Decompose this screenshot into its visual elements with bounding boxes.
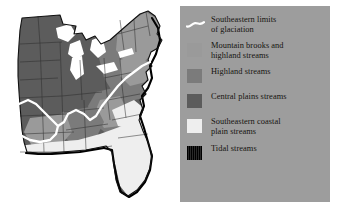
legend-label-central-plains-streams: Central plains streams	[211, 92, 287, 102]
legend-swatch-highland-streams	[187, 69, 202, 83]
legend-line-1: Southeastern limits	[211, 15, 276, 24]
legend-item-central-plains-streams: Central plains streams	[180, 92, 330, 109]
legend-panel: Southeastern limits of glaciation Mounta…	[180, 6, 330, 202]
legend-label-mountain-brooks: Mountain brooks and highland streams	[211, 41, 284, 60]
legend-swatch-cell	[187, 145, 204, 161]
legend-swatch-cell	[187, 42, 204, 58]
legend-line-1: Southeastern coastal	[211, 117, 281, 126]
legend-swatch-cell	[187, 16, 204, 32]
legend-swatch-mountain-brooks	[187, 43, 202, 57]
legend-line-1: Tidal streams	[211, 144, 257, 153]
legend-line-1: Mountain brooks and	[211, 41, 284, 50]
legend-line-1: Highland streams	[211, 67, 271, 76]
legend-swatch-tidal-streams	[187, 146, 202, 160]
legend-label-highland-streams: Highland streams	[211, 67, 271, 77]
legend-line-2: highland streams	[211, 51, 284, 61]
legend-line-2: of glaciation	[211, 25, 276, 35]
legend-item-coastal-plain-streams: Southeastern coastal plain streams	[180, 117, 330, 136]
eastern-us-map	[0, 0, 180, 216]
legend-item-glaciation-limit: Southeastern limits of glaciation	[180, 15, 330, 34]
legend-swatch-cell	[187, 118, 204, 134]
map-regions	[0, 0, 180, 216]
legend-label-tidal-streams: Tidal streams	[211, 144, 257, 154]
legend-label-coastal-plain-streams: Southeastern coastal plain streams	[211, 117, 281, 136]
legend-line-1: Central plains streams	[211, 92, 287, 101]
legend-item-highland-streams: Highland streams	[180, 67, 330, 84]
legend-swatch-central-plains-streams	[187, 94, 202, 108]
legend-line-2: plain streams	[211, 127, 281, 137]
legend-item-tidal-streams: Tidal streams	[180, 144, 330, 161]
legend-swatch-cell	[187, 93, 204, 109]
glaciation-line-icon	[186, 20, 205, 29]
stream-types-figure: Southeastern limits of glaciation Mounta…	[0, 0, 337, 216]
legend-swatch-cell	[187, 68, 204, 84]
legend-swatch-coastal-plain-streams	[187, 119, 202, 133]
legend-item-mountain-brooks: Mountain brooks and highland streams	[180, 41, 330, 60]
legend-label-glaciation-limit: Southeastern limits of glaciation	[211, 15, 276, 34]
map-panel	[0, 0, 180, 216]
